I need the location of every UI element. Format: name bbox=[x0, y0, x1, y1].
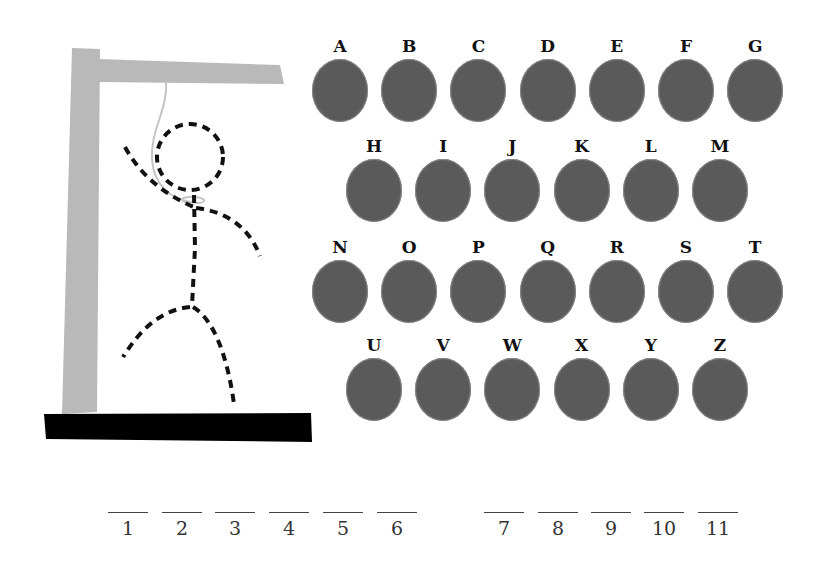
letter-button-m[interactable]: M bbox=[691, 136, 749, 222]
letter-button-y[interactable]: Y bbox=[622, 335, 680, 421]
letter-label: S bbox=[657, 237, 715, 257]
letter-disc[interactable] bbox=[415, 159, 471, 222]
letter-button-j[interactable]: J bbox=[483, 136, 541, 222]
letter-disc[interactable] bbox=[623, 159, 679, 222]
slot-line bbox=[215, 512, 255, 513]
letter-label: G bbox=[726, 36, 784, 56]
right-leg bbox=[193, 307, 234, 404]
letter-disc[interactable] bbox=[484, 159, 540, 222]
slot-line bbox=[484, 512, 524, 513]
letter-slot-6: 6 bbox=[377, 512, 417, 546]
letter-disc[interactable] bbox=[520, 260, 576, 323]
letter-label: H bbox=[345, 136, 403, 156]
letter-slot-3: 3 bbox=[215, 512, 255, 546]
letter-button-b[interactable]: B bbox=[380, 36, 438, 122]
letter-label: L bbox=[622, 136, 680, 156]
letter-slot-7: 7 bbox=[484, 512, 524, 546]
letter-label: U bbox=[345, 335, 403, 355]
letter-disc[interactable] bbox=[312, 260, 368, 323]
letter-disc[interactable] bbox=[623, 358, 679, 421]
letter-button-e[interactable]: E bbox=[588, 36, 646, 122]
letter-button-t[interactable]: T bbox=[726, 237, 784, 323]
letter-disc[interactable] bbox=[554, 358, 610, 421]
letter-button-o[interactable]: O bbox=[380, 237, 438, 323]
letter-button-k[interactable]: K bbox=[553, 136, 611, 222]
letter-label: M bbox=[691, 136, 749, 156]
letter-slot-5: 5 bbox=[323, 512, 363, 546]
letter-slot-2: 2 bbox=[162, 512, 202, 546]
letter-disc[interactable] bbox=[381, 260, 437, 323]
letter-disc[interactable] bbox=[450, 260, 506, 323]
letter-label: Y bbox=[622, 335, 680, 355]
slot-number: 10 bbox=[644, 517, 684, 539]
letter-button-h[interactable]: H bbox=[345, 136, 403, 222]
letter-disc[interactable] bbox=[658, 260, 714, 323]
letter-label: Z bbox=[691, 335, 749, 355]
letter-button-u[interactable]: U bbox=[345, 335, 403, 421]
letter-label: R bbox=[588, 237, 646, 257]
letter-disc[interactable] bbox=[450, 59, 506, 122]
letter-slot-1: 1 bbox=[108, 512, 148, 546]
letter-button-p[interactable]: P bbox=[449, 237, 507, 323]
letter-disc[interactable] bbox=[589, 260, 645, 323]
left-leg bbox=[123, 307, 190, 357]
letter-disc[interactable] bbox=[346, 159, 402, 222]
letter-disc[interactable] bbox=[692, 358, 748, 421]
letter-label: P bbox=[449, 237, 507, 257]
slot-number: 2 bbox=[162, 517, 202, 539]
letter-button-d[interactable]: D bbox=[519, 36, 577, 122]
letter-button-l[interactable]: L bbox=[622, 136, 680, 222]
letter-slot-11: 11 bbox=[698, 512, 738, 546]
right-arm bbox=[196, 208, 260, 256]
letter-button-q[interactable]: Q bbox=[519, 237, 577, 323]
letter-disc[interactable] bbox=[381, 59, 437, 122]
slot-number: 11 bbox=[698, 517, 738, 539]
letter-label: C bbox=[449, 36, 507, 56]
letter-button-n[interactable]: N bbox=[311, 237, 369, 323]
slot-line bbox=[323, 512, 363, 513]
hangman-figure bbox=[123, 124, 260, 404]
letter-disc[interactable] bbox=[415, 358, 471, 421]
gallows-beam bbox=[98, 59, 284, 84]
letter-disc[interactable] bbox=[484, 358, 540, 421]
slot-line bbox=[377, 512, 417, 513]
slot-number: 8 bbox=[538, 517, 578, 539]
gallows-base bbox=[44, 413, 312, 442]
letter-disc[interactable] bbox=[692, 159, 748, 222]
letter-disc[interactable] bbox=[727, 59, 783, 122]
letter-button-z[interactable]: Z bbox=[691, 335, 749, 421]
letter-disc[interactable] bbox=[346, 358, 402, 421]
letter-disc[interactable] bbox=[658, 59, 714, 122]
letter-disc[interactable] bbox=[727, 260, 783, 323]
letter-button-f[interactable]: F bbox=[657, 36, 715, 122]
letter-button-v[interactable]: V bbox=[414, 335, 472, 421]
letter-button-w[interactable]: W bbox=[483, 335, 541, 421]
letter-disc[interactable] bbox=[312, 59, 368, 122]
letter-button-x[interactable]: X bbox=[553, 335, 611, 421]
letter-disc[interactable] bbox=[554, 159, 610, 222]
letter-button-c[interactable]: C bbox=[449, 36, 507, 122]
letter-label: Q bbox=[519, 237, 577, 257]
letter-button-g[interactable]: G bbox=[726, 36, 784, 122]
letter-label: E bbox=[588, 36, 646, 56]
gallows-post bbox=[62, 48, 100, 414]
letter-slot-8: 8 bbox=[538, 512, 578, 546]
slot-line bbox=[644, 512, 684, 513]
letter-label: W bbox=[483, 335, 541, 355]
slot-number: 5 bbox=[323, 517, 363, 539]
slot-line bbox=[538, 512, 578, 513]
slot-number: 4 bbox=[269, 517, 309, 539]
letter-disc[interactable] bbox=[520, 59, 576, 122]
letter-slot-4: 4 bbox=[269, 512, 309, 546]
letter-label: N bbox=[311, 237, 369, 257]
letter-disc[interactable] bbox=[589, 59, 645, 122]
letter-button-s[interactable]: S bbox=[657, 237, 715, 323]
letter-label: I bbox=[414, 136, 472, 156]
letter-button-r[interactable]: R bbox=[588, 237, 646, 323]
letter-button-a[interactable]: A bbox=[311, 36, 369, 122]
slot-number: 9 bbox=[591, 517, 631, 539]
slot-number: 6 bbox=[377, 517, 417, 539]
letter-label: K bbox=[553, 136, 611, 156]
slot-line bbox=[698, 512, 738, 513]
letter-button-i[interactable]: I bbox=[414, 136, 472, 222]
